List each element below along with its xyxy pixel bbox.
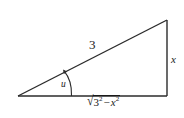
angle-label: u: [61, 80, 66, 90]
triangle-hypotenuse-edge: [18, 20, 167, 96]
base-side-label: √32−x2: [87, 95, 120, 108]
radicand: 32−x2: [93, 95, 121, 108]
radicand-second-exponent: 2: [116, 95, 120, 103]
opposite-side-label: x: [171, 54, 176, 65]
radicand-operator: −: [103, 96, 111, 108]
hypotenuse-label: 3: [89, 38, 96, 51]
triangle-diagram: 3 x u √32−x2: [0, 0, 184, 118]
radical-expression: √32−x2: [87, 95, 120, 108]
radical-sign-icon: √: [87, 93, 94, 107]
